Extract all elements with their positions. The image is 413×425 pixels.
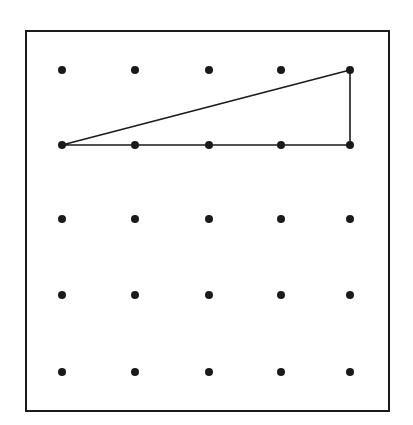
- grid-dot-r1-c0: [58, 141, 66, 149]
- grid-dot-r2-c1: [131, 215, 139, 223]
- dots-layer: [58, 66, 354, 376]
- grid-dot-r2-c0: [58, 215, 66, 223]
- grid-dot-r4-c4: [346, 368, 354, 376]
- grid-dot-r0-c4: [346, 66, 354, 74]
- grid-dot-r3-c4: [346, 291, 354, 299]
- grid-dot-r4-c3: [277, 368, 285, 376]
- grid-dot-r2-c3: [277, 215, 285, 223]
- grid-dot-r3-c2: [205, 291, 213, 299]
- grid-dot-r0-c2: [205, 66, 213, 74]
- grid-dot-r2-c4: [346, 215, 354, 223]
- grid-dot-r2-c2: [205, 215, 213, 223]
- right-triangle: [62, 70, 350, 145]
- grid-dot-r1-c2: [205, 141, 213, 149]
- grid-dot-r1-c3: [277, 141, 285, 149]
- grid-dot-r3-c0: [58, 291, 66, 299]
- dot-grid-diagram: [0, 0, 413, 425]
- grid-dot-r0-c3: [277, 66, 285, 74]
- grid-dot-r0-c1: [131, 66, 139, 74]
- grid-dot-r4-c2: [205, 368, 213, 376]
- grid-dot-r1-c4: [346, 141, 354, 149]
- grid-dot-r4-c0: [58, 368, 66, 376]
- shapes-layer: [62, 70, 350, 145]
- grid-dot-r3-c3: [277, 291, 285, 299]
- grid-dot-r1-c1: [131, 141, 139, 149]
- grid-dot-r3-c1: [131, 291, 139, 299]
- grid-dot-r0-c0: [58, 66, 66, 74]
- grid-dot-r4-c1: [131, 368, 139, 376]
